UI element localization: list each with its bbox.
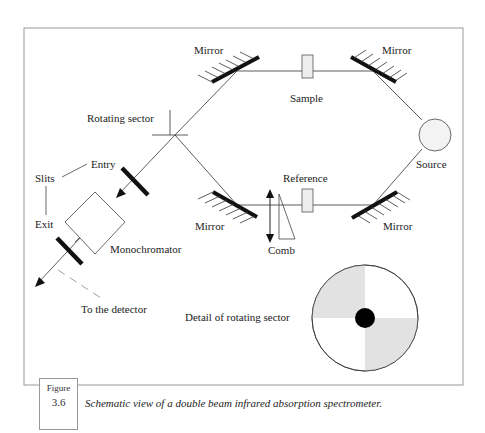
label-mirror-bottom-left: Mirror <box>195 220 225 232</box>
label-exit: Exit <box>35 218 53 230</box>
label-rotating-sector: Rotating sector <box>87 112 154 124</box>
label-comb: Comb <box>268 244 295 256</box>
label-mirror-top-right: Mirror <box>382 44 412 56</box>
label-slits: Slits <box>35 172 55 184</box>
label-monochromator: Monochromator <box>110 243 182 255</box>
exit-slit <box>57 238 82 264</box>
label-mirror-bottom-right: Mirror <box>383 220 413 232</box>
sample-cell <box>302 55 313 78</box>
comb-icon <box>266 189 295 243</box>
rotating-sector-icon <box>152 110 188 135</box>
entry-arrowhead <box>116 188 126 198</box>
figure-number-box: Figure 3.6 <box>39 378 78 430</box>
label-mirror-top-left: Mirror <box>194 44 224 56</box>
figure-word: Figure <box>40 383 77 393</box>
sector-hub <box>355 308 375 328</box>
reference-cell <box>302 189 313 212</box>
label-to-detector: To the detector <box>81 303 147 315</box>
mirror-bottom-left <box>198 192 257 223</box>
label-sample: Sample <box>290 92 323 104</box>
label-detail-rotating-sector: Detail of rotating sector <box>185 311 290 323</box>
spectrometer-diagram: Mirror Mirror Sample Rotating sector Sou… <box>0 0 485 433</box>
detector-dashed-line <box>58 270 101 298</box>
entry-slit <box>122 168 148 195</box>
mirror-bottom-right <box>352 192 410 223</box>
source-icon <box>419 119 451 151</box>
figure-number: 3.6 <box>40 396 77 408</box>
label-source: Source <box>416 158 447 170</box>
label-entry: Entry <box>91 158 116 170</box>
figure-caption: Schematic view of a double beam infrared… <box>85 397 382 409</box>
rotating-sector-detail <box>312 265 418 371</box>
detector-arrowhead <box>35 277 45 287</box>
mirror-top-left <box>198 52 259 82</box>
label-reference: Reference <box>283 172 328 184</box>
